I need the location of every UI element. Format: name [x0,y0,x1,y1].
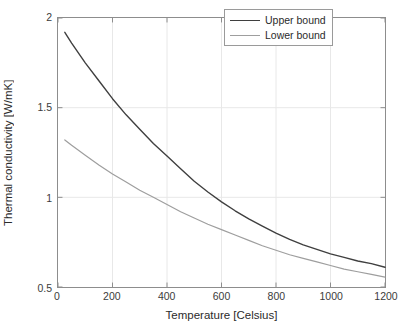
x-tick-label: 1200 [374,291,397,302]
y-axis-title: Thermal conductivity [W/mK] [0,17,16,288]
x-tick-label: 400 [158,291,176,302]
x-axis-title: Temperature [Celsius] [57,309,386,321]
x-tick-label: 200 [103,291,121,302]
x-tick-label: 800 [268,291,286,302]
legend-swatch-lower-bound [230,35,260,36]
y-tick-label: 0.5 [37,283,52,294]
tick-marks [58,18,385,287]
y-tick-label: 1.5 [37,102,52,113]
x-tick-label: 0 [54,291,60,302]
y-tick-label: 1 [46,192,52,203]
chart-legend: Upper bound Lower bound [224,9,333,46]
x-tick-label: 1000 [319,291,342,302]
y-tick-label: 2 [46,12,52,23]
legend-label-lower-bound: Lower bound [265,30,326,41]
legend-swatch-upper-bound [230,20,260,21]
legend-item-upper-bound: Upper bound [230,14,326,26]
chart-figure: 020040060080010001200 0.511.52 Temperatu… [0,0,413,333]
legend-label-upper-bound: Upper bound [265,15,326,26]
plot-area [57,17,386,288]
legend-item-lower-bound: Lower bound [230,29,326,41]
x-tick-label: 600 [213,291,231,302]
